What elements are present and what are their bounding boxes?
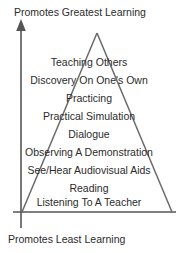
pyramid-row: Discovery On One's Own [0, 74, 186, 86]
pyramid-row-label: Dialogue [68, 128, 109, 140]
pyramid-row-label: Practicing [66, 92, 112, 104]
pyramid-row-label: Teaching Others [51, 56, 127, 68]
pyramid-row-label: Listening To A Teacher [37, 196, 142, 208]
pyramid-row: Dialogue [0, 128, 186, 140]
pyramid-row-label: Observing A Demonstration [25, 146, 153, 158]
pyramid-row-label: Reading [69, 182, 108, 194]
pyramid-row: Listening To A Teacher [0, 196, 186, 208]
pyramid-row-label: See/Hear Audiovisual Aids [27, 164, 150, 176]
pyramid-row: See/Hear Audiovisual Aids [0, 164, 186, 176]
pyramid-row-label: Practical Simulation [43, 110, 135, 122]
pyramid-row: Reading [0, 182, 186, 194]
pyramid-row-list: Teaching Others Discovery On One's Own P… [0, 0, 186, 253]
pyramid-row: Practical Simulation [0, 110, 186, 122]
pyramid-row-label: Discovery On One's Own [30, 74, 148, 86]
pyramid-row: Practicing [0, 92, 186, 104]
learning-pyramid-figure: Promotes Greatest Learning Promotes Leas… [0, 0, 186, 253]
pyramid-row: Teaching Others [0, 56, 186, 68]
pyramid-row: Observing A Demonstration [0, 146, 186, 158]
